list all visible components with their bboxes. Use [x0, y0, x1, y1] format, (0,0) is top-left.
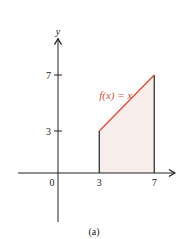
y-tick-label: 7	[46, 70, 51, 81]
y-tick-label: 3	[46, 126, 51, 137]
origin-label: 0	[50, 177, 55, 188]
y-axis-label: y	[55, 26, 61, 37]
x-tick-label: 3	[97, 177, 102, 188]
function-label: f(x) = x	[99, 89, 132, 102]
chart: 3737 y 0 f(x) = x (a)	[0, 0, 186, 239]
x-tick-label: 7	[152, 177, 157, 188]
figure-caption: (a)	[88, 226, 99, 238]
